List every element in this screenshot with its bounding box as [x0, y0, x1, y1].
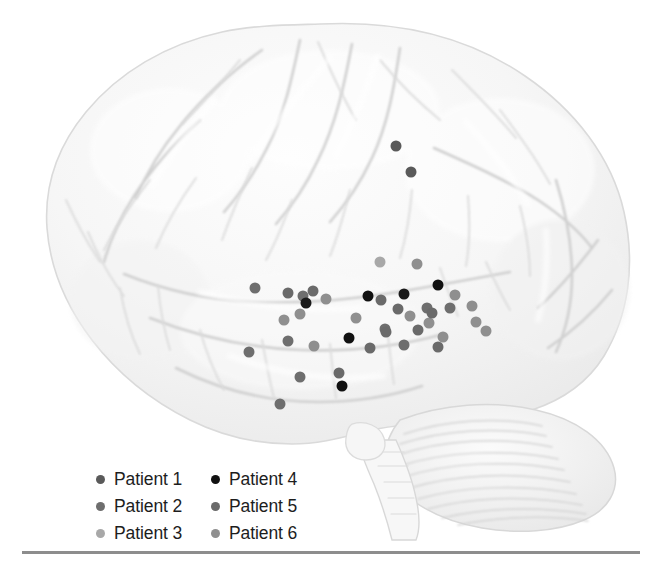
legend-item-patient-5: Patient 5 [210, 493, 325, 520]
legend-label: Patient 3 [114, 523, 182, 544]
legend-swatch-icon [96, 475, 105, 484]
legend-label: Patient 5 [229, 496, 297, 517]
brain-electrode-figure: Patient 1Patient 4Patient 2Patient 5Pati… [0, 0, 662, 573]
cerebellum-group [386, 405, 616, 532]
legend-swatch-icon [96, 529, 105, 538]
legend-item-patient-2: Patient 2 [95, 493, 210, 520]
legend-label: Patient 1 [114, 469, 182, 490]
legend-item-patient-6: Patient 6 [210, 520, 325, 547]
legend-label: Patient 6 [229, 523, 297, 544]
legend-item-patient-1: Patient 1 [95, 466, 210, 493]
cerebrum-group [47, 23, 630, 444]
legend-item-patient-4: Patient 4 [210, 466, 325, 493]
cerebellum-outline [386, 405, 616, 532]
legend-swatch-icon [211, 529, 220, 538]
legend-swatch-icon [96, 502, 105, 511]
legend-swatch-icon [211, 475, 220, 484]
bottom-divider [22, 551, 640, 554]
legend-label: Patient 2 [114, 496, 182, 517]
legend-item-patient-3: Patient 3 [95, 520, 210, 547]
legend-label: Patient 4 [229, 469, 297, 490]
patient-legend: Patient 1Patient 4Patient 2Patient 5Pati… [95, 466, 355, 547]
legend-swatch-icon [211, 502, 220, 511]
